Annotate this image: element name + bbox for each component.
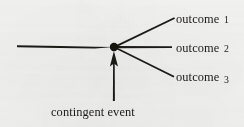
branch-line-outcome-2 [114,46,172,48]
label-outcome-3-text: outcome [176,70,219,84]
label-outcome-3: outcome3 [176,71,229,83]
contingent-event-arrow-shaft [113,62,115,101]
label-outcome-2: outcome2 [176,42,229,54]
branch-line-outcome-1 [114,17,175,48]
label-contingent-event: contingent event [51,106,135,118]
label-outcome-1-number: 1 [224,14,229,25]
branch-line-outcome-3 [113,46,174,78]
label-outcome-2-number: 2 [224,43,229,54]
label-outcome-1: outcome1 [176,13,229,25]
incoming-trunk-line [17,45,114,48]
contingent-event-figure: outcome1 outcome2 outcome3 contingent ev… [0,0,244,127]
label-outcome-1-text: outcome [176,12,219,26]
label-outcome-2-text: outcome [176,41,219,55]
label-outcome-3-number: 3 [224,74,229,85]
contingent-event-node [110,43,118,51]
